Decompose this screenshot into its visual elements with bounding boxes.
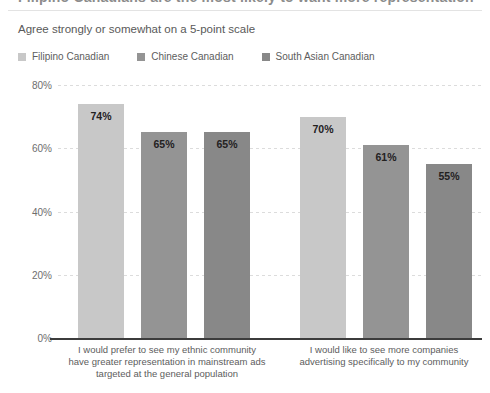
bar[interactable]: 61% xyxy=(363,145,409,338)
chart-legend: Filipino Canadian Chinese Canadian South… xyxy=(18,51,403,62)
plot-area: 74%65%65%70%61%55% xyxy=(58,85,482,338)
bar-value-label: 70% xyxy=(300,123,346,135)
legend-item-south-asian-canadian[interactable]: South Asian Canadian xyxy=(262,51,375,62)
legend-swatch-chinese-canadian xyxy=(137,53,145,61)
category-label: I would like to see more companiesadvert… xyxy=(284,344,484,368)
category-label-line: targeted at the general population xyxy=(52,368,282,380)
legend-swatch-south-asian-canadian xyxy=(262,53,270,61)
gridline-80 xyxy=(58,85,482,86)
y-axis-tick-80: 80% xyxy=(10,80,52,91)
bar-value-label: 61% xyxy=(363,151,409,163)
chart-title-clip: Filipino Canadians are the most likely t… xyxy=(0,0,490,8)
category-label-line: I would prefer to see my ethnic communit… xyxy=(52,344,282,356)
legend-label-filipino-canadian: Filipino Canadian xyxy=(32,51,109,62)
y-axis-tick-60: 60% xyxy=(10,143,52,154)
legend-item-chinese-canadian[interactable]: Chinese Canadian xyxy=(137,51,233,62)
y-axis: 80%60%40%20%0% xyxy=(0,85,52,338)
category-label: I would prefer to see my ethnic communit… xyxy=(52,344,282,380)
bar[interactable]: 70% xyxy=(300,117,346,338)
y-axis-tick-0: 0% xyxy=(10,333,52,344)
bar-value-label: 65% xyxy=(204,138,250,150)
legend-label-chinese-canadian: Chinese Canadian xyxy=(151,51,233,62)
legend-label-south-asian-canadian: South Asian Canadian xyxy=(276,51,375,62)
y-axis-tick-40: 40% xyxy=(10,206,52,217)
bar[interactable]: 55% xyxy=(426,164,472,338)
bar[interactable]: 65% xyxy=(204,132,250,338)
y-axis-tick-20: 20% xyxy=(10,269,52,280)
bar-value-label: 65% xyxy=(141,138,187,150)
bar[interactable]: 74% xyxy=(78,104,124,338)
category-label-line: I would like to see more companies xyxy=(284,344,484,356)
x-axis-line xyxy=(50,338,482,340)
legend-item-filipino-canadian[interactable]: Filipino Canadian xyxy=(18,51,109,62)
chart-subtitle: Agree strongly or somewhat on a 5-point … xyxy=(18,23,255,35)
chart-title: Filipino Canadians are the most likely t… xyxy=(18,0,474,5)
legend-swatch-filipino-canadian xyxy=(18,53,26,61)
category-label-line: advertising specifically to my community xyxy=(284,356,484,368)
bar-value-label: 74% xyxy=(78,110,124,122)
category-label-line: have greater representation in mainstrea… xyxy=(52,356,282,368)
title-divider xyxy=(8,10,482,11)
bar[interactable]: 65% xyxy=(141,132,187,338)
bar-value-label: 55% xyxy=(426,170,472,182)
